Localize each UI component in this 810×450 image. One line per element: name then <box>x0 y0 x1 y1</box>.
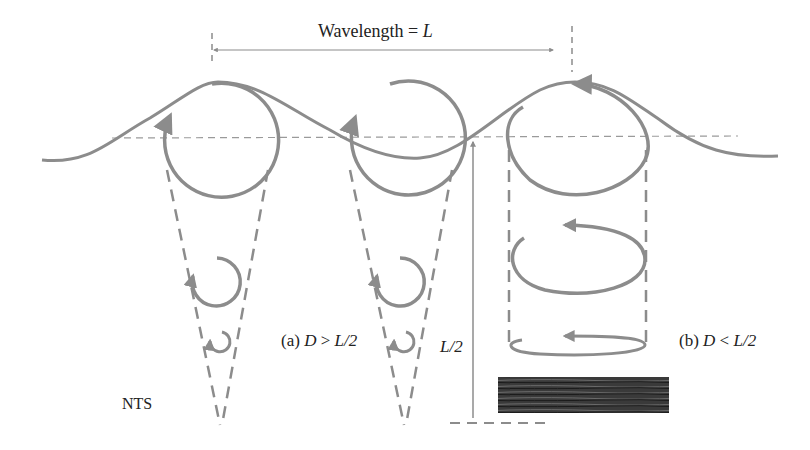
case-b-label: (b) D < L/2 <box>679 332 756 349</box>
orbit-ellipse-medium <box>513 225 645 293</box>
wave-orbit-diagram: Wavelength = L (a) D > L/2 (b) D < L/2 L… <box>0 0 810 450</box>
wavelength-label: Wavelength = L <box>318 22 433 40</box>
orbit-ellipse-flat <box>511 336 645 355</box>
orbit-circle-large <box>165 83 279 197</box>
case-a2-orbits <box>350 81 465 425</box>
orbit-circle-medium <box>376 258 424 306</box>
orbit-ellipse-large <box>508 84 649 195</box>
orbit-circle-small <box>210 332 230 352</box>
orbit-circle-small <box>394 332 414 352</box>
orbit-circle-medium <box>192 258 240 306</box>
wave-profile <box>42 82 778 161</box>
diagram-canvas <box>0 0 810 450</box>
not-to-scale-note: NTS <box>122 396 152 412</box>
still-water-line <box>112 136 738 138</box>
case-a-label: (a) D > L/2 <box>281 332 357 349</box>
case-a1-orbits <box>165 83 279 425</box>
depth-label: L/2 <box>440 338 463 355</box>
seabed-block <box>498 377 669 413</box>
case-b-orbits <box>508 84 649 355</box>
orbit-circle-large <box>351 81 465 195</box>
